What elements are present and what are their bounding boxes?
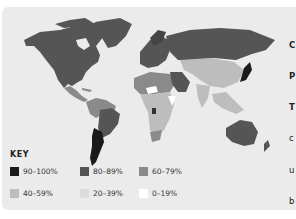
legend-swatch (139, 167, 148, 176)
legend-item-20-39: 20–39% (80, 188, 123, 198)
region-greenland (95, 18, 132, 48)
region-central-america (64, 86, 88, 102)
region-australia (226, 120, 258, 146)
region-central-asia-china (180, 58, 244, 88)
side-text-line: u (289, 165, 296, 175)
region-middle-east (170, 72, 190, 92)
region-russia (166, 28, 275, 60)
side-text-line: C (289, 40, 296, 50)
legend-swatch (10, 189, 19, 198)
legend-title: KEY (10, 150, 29, 159)
side-text-line: T (289, 102, 296, 112)
region-argentina (90, 128, 104, 166)
legend-label: 40–59% (23, 189, 53, 198)
region-southeast-asia (212, 92, 244, 114)
legend-label: 90–100% (23, 167, 58, 176)
region-south-africa (150, 130, 162, 142)
side-text-line: P (289, 71, 296, 81)
legend-swatch (139, 189, 148, 198)
legend-label: 60–79% (152, 167, 182, 176)
legend-item-60-79: 60–79% (139, 166, 182, 176)
legend-swatch (10, 167, 19, 176)
legend-item-40-59: 40–59% (10, 188, 53, 198)
region-central-africa-dark (152, 108, 156, 114)
legend-item-90-100: 90–100% (10, 166, 58, 176)
legend-label: 80–89% (93, 167, 123, 176)
region-caribbean (82, 88, 92, 92)
legend-swatch (80, 167, 89, 176)
legend-swatch (80, 189, 89, 198)
region-india (196, 84, 210, 108)
side-text-line: c (289, 133, 296, 143)
legend-item-0-19: 0–19% (139, 188, 177, 198)
world-choropleth-map (0, 0, 296, 219)
legend-item-80-89: 80–89% (80, 166, 123, 176)
region-new-zealand (264, 140, 270, 152)
region-north-america (24, 22, 110, 88)
legend-label: 20–39% (93, 189, 123, 198)
side-text-line: b (289, 196, 296, 206)
truncated-side-text: C P T c u b r N t t i v is 3 (289, 19, 296, 219)
legend-label: 0–19% (152, 189, 177, 198)
